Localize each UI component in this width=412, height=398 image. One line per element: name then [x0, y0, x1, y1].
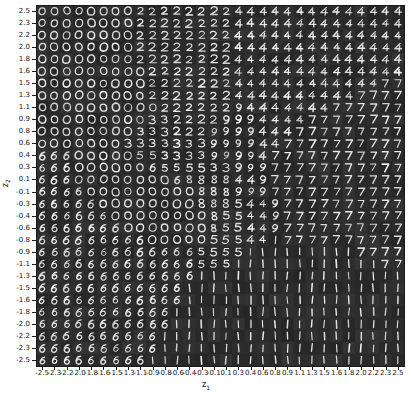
digit-cell: [275, 321, 276, 328]
digit-cell: [189, 332, 190, 339]
digit-cell: [385, 272, 386, 279]
y-tick-label: 0.6: [0, 139, 30, 147]
manifold-plot-area: [36, 5, 404, 366]
digit-cell: [287, 320, 288, 328]
y-tick-label: -1.8: [0, 308, 30, 316]
x-tick-mark: [67, 366, 68, 370]
x-tick-mark: [226, 366, 227, 370]
axis-spine-left: [36, 5, 37, 366]
y-tick-label: -1.5: [0, 284, 30, 292]
digit-cell: [385, 308, 386, 315]
y-tick-label: -0.3: [0, 200, 30, 208]
x-tick-mark: [312, 366, 313, 370]
y-tick-mark: [32, 240, 36, 241]
digit-cell: [287, 272, 288, 279]
digit-cell: [152, 357, 153, 364]
x-tick-mark: [238, 366, 239, 370]
y-tick-label: -2.2: [0, 332, 30, 340]
x-tick-mark: [103, 366, 104, 370]
x-tick-mark: [275, 366, 276, 370]
y-tick-label: -2.0: [0, 320, 30, 328]
y-tick-mark: [32, 35, 36, 36]
digit-cell: [287, 285, 288, 292]
y-axis-label-sub: 2: [4, 179, 11, 183]
y-tick-mark: [32, 264, 36, 265]
digit-cell: [312, 272, 313, 279]
digit-cell: [312, 344, 313, 352]
digit-cell: [263, 332, 264, 340]
y-tick-label: 1.5: [0, 79, 30, 87]
axis-spine-top: [36, 5, 405, 6]
y-tick-mark: [32, 300, 36, 301]
digit-cell: [336, 309, 337, 316]
y-tick-mark: [32, 192, 36, 193]
digit-cell: [201, 308, 202, 315]
digit-cell: [189, 284, 190, 292]
y-tick-mark: [32, 71, 36, 72]
digit-cell: [238, 284, 239, 291]
y-tick-mark: [32, 288, 36, 289]
digit-cell: [250, 260, 251, 267]
digit-cell: [361, 296, 362, 304]
y-tick-mark: [32, 155, 36, 156]
y-tick-label: 0.8: [0, 127, 30, 135]
digit-cell: [386, 344, 387, 352]
digit-cell: [361, 356, 362, 363]
y-tick-mark: [32, 95, 36, 96]
x-tick-mark: [337, 366, 338, 370]
y-tick-mark: [32, 167, 36, 168]
y-tick-mark: [32, 59, 36, 60]
y-tick-label: 0.3: [0, 163, 30, 171]
digit-cell: [238, 333, 239, 340]
digit-cell: [275, 236, 276, 244]
y-tick-label: 1.8: [0, 55, 30, 63]
y-tick-mark: [32, 107, 36, 108]
digit-cell: [287, 356, 288, 363]
y-tick-mark: [32, 228, 36, 229]
digit-cell: [312, 284, 313, 292]
digit-cell: [225, 356, 226, 364]
digit-cell: [398, 344, 399, 351]
x-tick-mark: [54, 366, 55, 370]
x-tick-mark: [398, 366, 399, 370]
x-axis-label-sub: 1: [206, 384, 210, 391]
y-axis-label: z2: [1, 173, 12, 193]
digit-cell: [349, 344, 350, 352]
y-tick-mark: [32, 276, 36, 277]
y-tick-label: -0.6: [0, 224, 30, 232]
x-tick-mark: [165, 366, 166, 370]
digit-cell: [201, 357, 202, 365]
y-tick-label: -1.1: [0, 260, 30, 268]
digit-cell: [312, 296, 313, 303]
digit-cell: [324, 320, 325, 327]
digit-cell: [373, 284, 374, 292]
y-tick-label: 2.3: [0, 19, 30, 27]
digit-cell: [324, 356, 325, 363]
x-tick-mark: [202, 366, 203, 370]
x-tick-mark: [79, 366, 80, 370]
x-tick-mark: [287, 366, 288, 370]
digit-cell: [251, 284, 252, 292]
digit-cell: [214, 356, 215, 363]
y-tick-mark: [32, 119, 36, 120]
x-tick-mark: [361, 366, 362, 370]
digit-cell: [238, 296, 239, 303]
x-tick-mark: [300, 366, 301, 370]
y-tick-label: 0.9: [0, 115, 30, 123]
digit-cell: [312, 248, 313, 255]
x-tick-mark: [189, 366, 190, 370]
y-tick-label: 1.1: [0, 103, 30, 111]
digit-cell: [336, 296, 337, 304]
y-tick-label: -2.3: [0, 344, 30, 352]
y-tick-mark: [32, 83, 36, 84]
digit-cell: [275, 356, 276, 363]
digit-cell: [349, 260, 350, 268]
x-tick-label: 2.5: [389, 369, 407, 377]
y-tick-label: -1.6: [0, 296, 30, 304]
x-tick-mark: [251, 366, 252, 370]
y-tick-mark: [32, 11, 36, 12]
x-tick-mark: [373, 366, 374, 370]
y-tick-mark: [32, 47, 36, 48]
digit-cell: [214, 272, 215, 280]
digit-cell: [214, 320, 215, 327]
